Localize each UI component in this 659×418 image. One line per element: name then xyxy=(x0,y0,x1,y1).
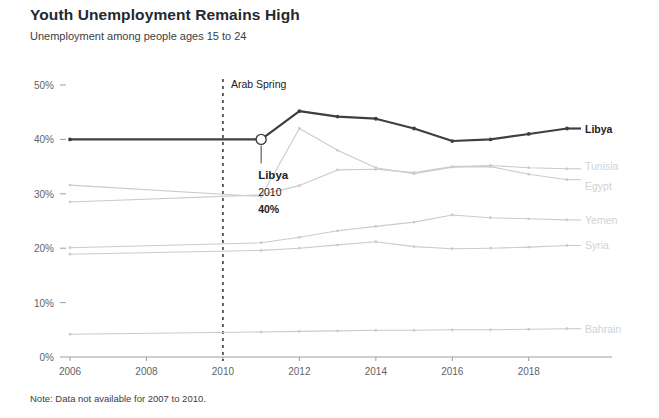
y-axis-tick-label: 10% xyxy=(34,298,54,309)
data-point xyxy=(527,173,530,176)
x-axis-tick-label: 2008 xyxy=(135,366,158,377)
series-label-yemen: Yemen xyxy=(585,214,617,226)
data-point xyxy=(489,138,493,142)
series-label-libya: Libya xyxy=(585,123,613,135)
y-axis-tick-label: 40% xyxy=(34,134,54,145)
data-point xyxy=(450,139,454,143)
y-axis-tick-label: 20% xyxy=(34,243,54,254)
x-axis-tick-label: 2014 xyxy=(365,366,388,377)
data-point xyxy=(297,109,301,113)
data-point xyxy=(336,149,339,152)
data-point xyxy=(374,329,377,332)
data-point xyxy=(413,245,416,248)
data-point xyxy=(374,166,377,169)
data-point xyxy=(69,333,72,336)
data-point xyxy=(260,249,263,252)
data-point xyxy=(336,115,340,119)
y-axis-tick-label: 0% xyxy=(40,352,55,363)
data-point xyxy=(489,165,492,168)
data-point xyxy=(527,246,530,249)
series-label-tunisia: Tunisia xyxy=(585,160,619,172)
callout-series-name: Libya xyxy=(258,169,289,181)
data-point xyxy=(527,217,530,220)
data-point xyxy=(413,172,416,175)
y-axis-tick-label: 30% xyxy=(34,189,54,200)
series-line-tunisia xyxy=(70,166,567,203)
data-point xyxy=(298,247,301,250)
x-axis-tick-label: 2016 xyxy=(441,366,464,377)
y-axis-tick-label: 50% xyxy=(34,80,54,91)
data-point xyxy=(489,328,492,331)
x-axis-tick-label: 2010 xyxy=(212,366,235,377)
data-point xyxy=(451,214,454,217)
data-point xyxy=(336,168,339,171)
callout-value: 40% xyxy=(258,203,280,215)
data-point xyxy=(451,247,454,250)
arab-spring-event-label: Arab Spring xyxy=(231,78,287,90)
data-point xyxy=(451,328,454,331)
data-point xyxy=(374,225,377,228)
series-line-libya xyxy=(70,111,567,141)
data-point xyxy=(527,328,530,331)
data-point xyxy=(260,241,263,244)
data-point xyxy=(298,127,301,130)
series-label-syria: Syria xyxy=(585,239,609,251)
data-point xyxy=(69,246,72,249)
data-point xyxy=(260,331,263,334)
series-label-bahrain: Bahrain xyxy=(585,323,621,335)
chart-note: Note: Data not available for 2007 to 201… xyxy=(30,393,206,404)
data-point xyxy=(336,229,339,232)
series-line-syria xyxy=(70,242,567,255)
data-point xyxy=(298,236,301,239)
data-point xyxy=(527,166,530,169)
callout-marker xyxy=(256,134,266,144)
data-point xyxy=(374,117,378,121)
x-axis-tick-label: 2012 xyxy=(288,366,311,377)
data-point xyxy=(489,247,492,250)
data-point xyxy=(298,330,301,333)
x-axis-tick-label: 2006 xyxy=(59,366,82,377)
series-line-yemen xyxy=(70,215,567,248)
series-label-egypt: Egypt xyxy=(585,180,612,192)
data-point xyxy=(336,329,339,332)
data-point xyxy=(527,132,531,136)
data-point xyxy=(413,329,416,332)
callout-year: 2010 xyxy=(258,186,282,198)
chart-card: Youth Unemployment Remains High Unemploy… xyxy=(0,0,659,418)
data-point xyxy=(374,240,377,243)
data-point xyxy=(336,244,339,247)
data-point xyxy=(69,253,72,256)
data-point xyxy=(451,166,454,169)
data-point xyxy=(68,138,72,142)
data-point xyxy=(69,201,72,204)
x-axis-tick-label: 2018 xyxy=(518,366,541,377)
line-chart-plot: 0%10%20%30%40%50%20062008201020122014201… xyxy=(0,0,659,418)
data-point xyxy=(412,127,416,131)
data-point xyxy=(413,221,416,224)
series-line-bahrain xyxy=(70,329,567,335)
data-point xyxy=(69,184,72,187)
data-point xyxy=(298,184,301,187)
data-point xyxy=(489,216,492,219)
